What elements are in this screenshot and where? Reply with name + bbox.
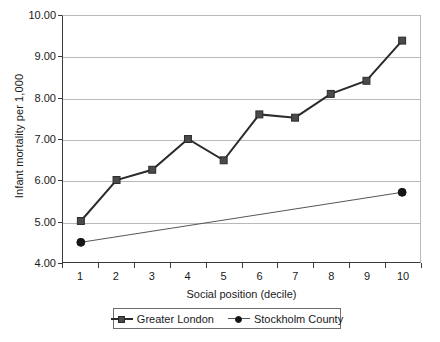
series-stockholm-county [77,188,406,246]
legend-label-stockholm-county: Stockholm County [254,313,343,325]
x-axis-tick-label: 9 [352,270,382,282]
x-axis-tick-label: 8 [316,270,346,282]
data-point-square-marker [256,111,263,118]
infant-mortality-line-chart: Infant mortality per 1,000 4.005.006.007… [0,0,440,342]
data-point-square-marker [77,218,84,225]
x-axis-tick-mark [313,263,314,268]
x-axis-tick-mark [277,263,278,268]
series-greater-london [77,37,405,224]
x-axis-tick-mark [134,263,135,268]
x-axis-tick-label: 4 [173,270,203,282]
data-point-square-marker [220,157,227,164]
data-point-square-marker [399,37,406,44]
x-axis-tick-mark [349,263,350,268]
x-axis-tick-mark [385,263,386,268]
data-point-square-marker [113,177,120,184]
plot-svg [63,16,420,262]
x-axis-tick-label: 10 [388,270,418,282]
data-point-square-marker [292,114,299,121]
legend-square-marker-icon [111,314,133,324]
x-axis-tick-label: 1 [65,270,95,282]
data-point-square-marker [184,136,191,143]
x-axis-tick-mark [98,263,99,268]
data-point-square-marker [327,90,334,97]
x-axis-tick-mark [242,263,243,268]
legend-label-greater-london: Greater London [137,313,214,325]
x-axis-tick-mark [170,263,171,268]
data-point-circle-marker [77,238,85,246]
x-axis-tick-mark [421,263,422,268]
x-axis-tick-label: 3 [137,270,167,282]
x-axis-tick-label: 7 [280,270,310,282]
x-axis-tick-label: 5 [209,270,239,282]
series-line [81,192,402,242]
x-axis-tick-label: 6 [244,270,274,282]
chart-legend: Greater London Stockholm County [113,308,341,329]
plot-area [62,15,421,263]
legend-entry-stockholm-county[interactable]: Stockholm County [228,313,343,325]
x-axis-title: Social position (decile) [62,288,421,300]
legend-entry-greater-london[interactable]: Greater London [111,313,214,325]
x-axis-tick-label: 2 [101,270,131,282]
legend-circle-marker-icon [228,314,250,324]
x-axis-tick-mark [206,263,207,268]
series-line [81,41,402,221]
data-point-square-marker [149,166,156,173]
x-axis-tick-mark [62,263,63,268]
data-point-circle-marker [398,188,406,196]
data-point-square-marker [363,77,370,84]
